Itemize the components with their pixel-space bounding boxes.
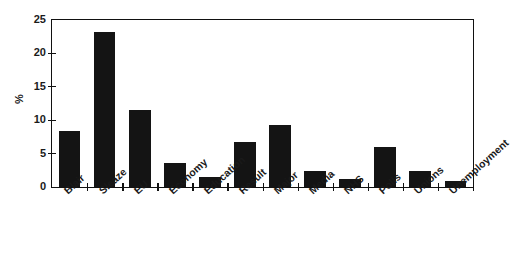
x-tick-mark [473,183,474,191]
x-axis-tick-labels: BlairSleazeEUEconomyEducationResultMajor… [51,188,472,267]
y-tick-mark [48,120,56,121]
bars-layer [52,20,473,187]
y-tick-label: 0 [20,181,46,192]
y-axis-tick-labels: 0510152025 [20,0,46,267]
plot-area [51,19,474,188]
bar [129,110,151,187]
bar [94,32,116,187]
y-tick-mark [48,53,56,54]
y-tick-mark [48,86,56,87]
y-tick-label: 10 [20,114,46,125]
y-tick-label: 20 [20,47,46,58]
y-tick-mark [48,153,56,154]
y-tick-label: 25 [20,14,46,25]
y-tick-label: 15 [20,80,46,91]
y-tick-label: 5 [20,147,46,158]
